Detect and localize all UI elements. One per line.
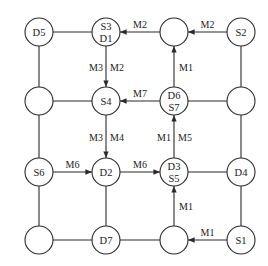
node-d5: D5 [25, 18, 53, 46]
node-circle [160, 18, 188, 46]
message-edge: M1 [174, 46, 193, 87]
message-label: M2 [201, 19, 215, 30]
node-circle [160, 226, 188, 254]
message-edge: M6 [53, 159, 92, 172]
node-circle [25, 87, 53, 115]
node-label: S1 [235, 235, 246, 246]
node-empty [25, 87, 53, 115]
message-edge: M7 [120, 88, 160, 101]
node-s6: S6 [25, 158, 53, 186]
message-label: M4 [110, 132, 124, 143]
node-circle [25, 226, 53, 254]
node-empty [25, 226, 53, 254]
mesh-network-diagram: M2M2M7M6M6M1M3M2M3M4M1M1M5M1 D5S3D1S2S4D… [0, 0, 268, 266]
node-d3-s5: D3S5 [160, 158, 188, 186]
message-edge: M1 [188, 227, 227, 240]
message-edge: M3M2 [89, 46, 124, 87]
node-s1: S1 [227, 226, 255, 254]
nodes-layer: D5S3D1S2S4D6S7S6D2D3S5D4D7S1 [25, 18, 255, 254]
node-d7: D7 [92, 226, 120, 254]
node-empty [227, 87, 255, 115]
node-label: D4 [235, 167, 249, 178]
message-label: M3 [89, 62, 103, 73]
node-label: S3 [100, 21, 111, 32]
node-label: S7 [168, 102, 179, 113]
message-label: M1 [179, 201, 193, 212]
node-label: S6 [33, 167, 44, 178]
node-empty [160, 226, 188, 254]
node-label: D1 [100, 33, 113, 44]
node-d2: D2 [92, 158, 120, 186]
node-label: S5 [168, 173, 179, 184]
node-label: D7 [100, 235, 113, 246]
node-label: S2 [235, 27, 246, 38]
message-edge: M3M4 [89, 115, 124, 158]
message-label: M1 [201, 227, 215, 238]
node-s4: S4 [92, 87, 120, 115]
message-label: M5 [178, 132, 192, 143]
message-edge: M2 [188, 19, 227, 32]
node-d6-s7: D6S7 [160, 87, 188, 115]
node-label: D6 [168, 90, 181, 101]
node-label: D2 [100, 167, 113, 178]
message-label: M1 [157, 132, 171, 143]
node-empty [160, 18, 188, 46]
message-label: M1 [179, 62, 193, 73]
node-circle [227, 87, 255, 115]
message-edge: M1M5 [157, 115, 192, 158]
node-s2: S2 [227, 18, 255, 46]
message-label: M2 [110, 62, 124, 73]
message-edge: M2 [120, 19, 160, 32]
node-s3-d1: S3D1 [92, 18, 120, 46]
message-edge: M1 [174, 186, 193, 226]
message-edge: M6 [120, 159, 160, 172]
message-label: M6 [133, 159, 147, 170]
message-label: M6 [66, 159, 80, 170]
message-label: M3 [89, 132, 103, 143]
edges-layer: M2M2M7M6M6M1M3M2M3M4M1M1M5M1 [39, 19, 241, 240]
node-label: D3 [168, 161, 181, 172]
node-label: D5 [33, 27, 46, 38]
node-d4: D4 [227, 158, 255, 186]
message-label: M2 [133, 19, 147, 30]
message-label: M7 [133, 88, 147, 99]
node-label: S4 [100, 96, 112, 107]
